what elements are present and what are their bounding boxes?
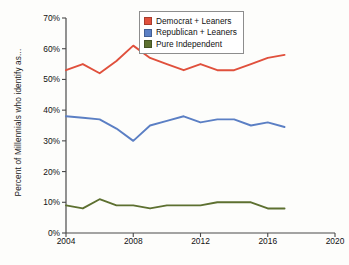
legend-swatch-icon [144,17,152,25]
legend-label: Republican + Leaners [156,27,237,38]
series-line-1 [66,116,285,141]
chart-figure: Percent of Millennials who identify as..… [0,0,349,265]
legend-label: Democrat + Leaners [156,16,231,27]
legend-item-1[interactable]: Republican + Leaners [144,27,237,38]
legend-swatch-icon [144,29,152,37]
legend-item-0[interactable]: Democrat + Leaners [144,16,237,27]
legend-swatch-icon [144,40,152,48]
legend-item-2[interactable]: Pure Independent [144,39,237,50]
series-line-2 [66,199,285,208]
legend-label: Pure Independent [156,39,222,50]
chart-legend: Democrat + LeanersRepublican + LeanersPu… [139,11,244,54]
